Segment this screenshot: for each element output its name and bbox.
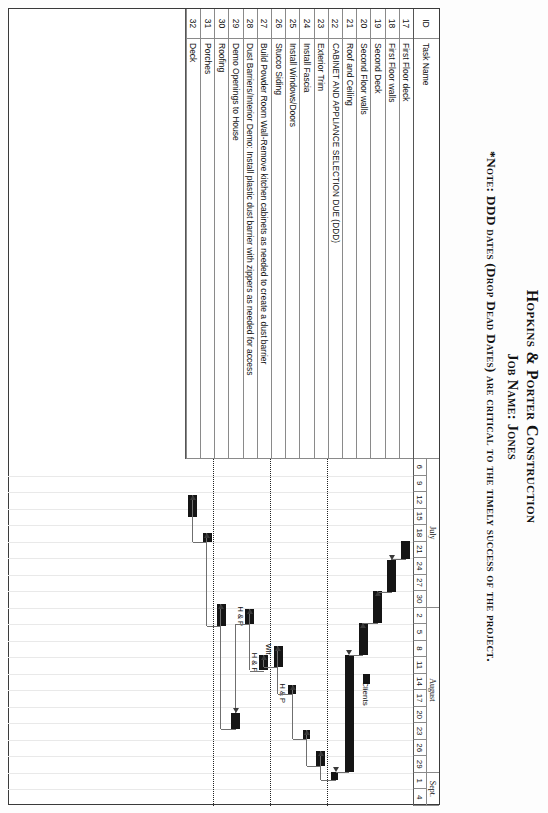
job-name: Job Name: Jones [503,353,522,460]
table-row[interactable]: 20Second Floor walls [356,9,370,459]
gantt-plot-area: H & PWit.H & PH & PClients [8,459,413,806]
title-block: Hopkins & Porter Construction Job Name: … [440,0,548,813]
gantt-dependency-arrow [218,604,224,609]
table-row[interactable]: 19Second Deck [370,9,384,459]
timescale-months: JulyAugustSept. [426,459,439,806]
timescale-days: 69121518212427302581114172023262914 [413,459,426,806]
table-row[interactable]: 17First Floor deck [399,9,413,459]
table-row[interactable]: 30Roofing [214,9,228,459]
timescale-day-tick: 24 [413,558,426,575]
timescale-month-july: July [426,459,439,608]
cell-task-name: Exterior Trim [315,39,328,459]
table-row[interactable]: 24Install Fascia [299,9,313,459]
cell-id: 29 [229,9,242,39]
table-row[interactable]: 23Exterior Trim [314,9,328,459]
timescale-day-tick: 30 [413,591,426,608]
cell-id: 32 [187,9,200,39]
column-header-task-name: Task Name [414,39,439,459]
table-bottom-rule [185,9,186,459]
cell-id: 17 [400,9,413,39]
table-row[interactable]: 21Roof and Ceiling [342,9,356,459]
timescale-day-tick: 18 [413,525,426,542]
gantt-gridline [8,558,413,559]
task-table: IDTask Name17First Floor deck18First Flo… [193,9,439,459]
timescale-day-tick: 26 [413,740,426,757]
table-row[interactable]: 28Dust Barriers/Interior Demo: Install p… [243,9,257,459]
cell-task-name: Stucco Siding [272,39,285,459]
cell-id: 30 [215,9,228,39]
gantt-dependency-link [193,542,207,543]
gantt-dependency-link [249,609,250,671]
cell-id: 26 [272,9,285,39]
gantt-dependency-arrow [346,650,352,655]
table-row[interactable]: 27Build Powder Room Wall-Remove kitchen … [257,9,271,459]
timescale-day-tick: 4 [413,789,426,806]
gantt-dependency-link [349,655,363,656]
cell-task-name: Roof and Ceiling [343,39,356,459]
cell-task-name: Install Windows/Doors [286,39,299,459]
gantt-dependency-arrow [247,609,253,614]
cell-task-name: Second Deck [371,39,384,459]
cell-task-name: Second Floor walls [357,39,370,459]
gantt-dependency-arrow [389,555,395,560]
legend-label: Clients [361,681,370,705]
gantt-dependency-link [278,694,293,695]
gantt-dependency-arrow [318,751,324,756]
gantt-dependency-link [220,604,221,729]
gantt-dependency-link [192,495,193,542]
gantt-task-bar[interactable] [231,713,240,730]
table-row[interactable]: 26Stucco Siding [271,9,285,459]
gantt-dependency-link [306,730,307,766]
timescale-day-tick: 20 [413,707,426,724]
gantt-dependency-link [264,667,278,668]
table-row[interactable]: 25Install Windows/Doors [285,9,299,459]
gantt-dependency-link [236,624,250,625]
timescale-month-august: August [426,608,439,773]
gantt-dependency-arrow [190,495,196,500]
cell-task-name: Porches [201,39,214,459]
table-row[interactable]: 31Porches [200,9,214,459]
cell-id: 21 [343,9,356,39]
gantt-dependency-arrow [375,591,381,596]
cell-id: 22 [329,9,342,39]
timescale-day-tick: 21 [413,542,426,559]
gantt-gridline [8,525,413,526]
timescale-day-tick: 11 [413,657,426,674]
timescale-day-tick: 15 [413,509,426,526]
gantt-gridline [8,492,413,493]
cell-task-name: Build Powder Room Wall-Remove kitchen ca… [258,39,271,459]
table-row[interactable]: 29Demo Openings to House [228,9,242,459]
gantt-gridline [8,773,413,774]
timescale-day-tick: 1 [413,773,426,790]
table-row[interactable]: 18First Floor walls [385,9,399,459]
table-row[interactable]: 22CABINET AND APPLIANCE SELECTION DUE (D… [328,9,342,459]
timescale-day-tick: 8 [413,641,426,658]
ddd-dotted-line [213,459,214,806]
gantt-task-bar[interactable] [387,560,396,592]
gantt-milestone-marker[interactable] [331,772,339,780]
ddd-note: *Note: DDD dates (Drop Dead Dates) are c… [482,151,501,662]
cell-id: 24 [300,9,313,39]
timescale-day-tick: 23 [413,723,426,740]
cell-id: 20 [357,9,370,39]
gantt-bar-label: H & P [236,607,245,627]
timescale-day-tick: 12 [413,492,426,509]
gantt-task-bar[interactable] [402,541,411,559]
gantt-dependency-arrow [233,708,239,713]
gantt-dependency-link [293,739,307,740]
cell-task-name: Dust Barriers/Interior Demo: Install pla… [244,39,257,459]
gantt-dependency-arrow [304,730,310,735]
table-row[interactable]: 32Deck [186,9,200,459]
gantt-dependency-arrow [290,685,296,690]
gantt-sheet: Hopkins & Porter Construction Job Name: … [0,0,548,813]
gantt-dependency-arrow [204,533,210,538]
scanned-page: Hopkins & Porter Construction Job Name: … [0,0,548,813]
timescale-day-tick: 9 [413,476,426,493]
column-header-id: ID [414,9,439,39]
gantt-bar-label: H & P [250,653,259,673]
cell-task-name: Install Fascia [300,39,313,459]
gantt-task-bar[interactable] [345,655,354,772]
gantt-dependency-link [292,685,293,739]
gantt-gridline [8,591,413,592]
gantt-dependency-link [307,766,320,767]
